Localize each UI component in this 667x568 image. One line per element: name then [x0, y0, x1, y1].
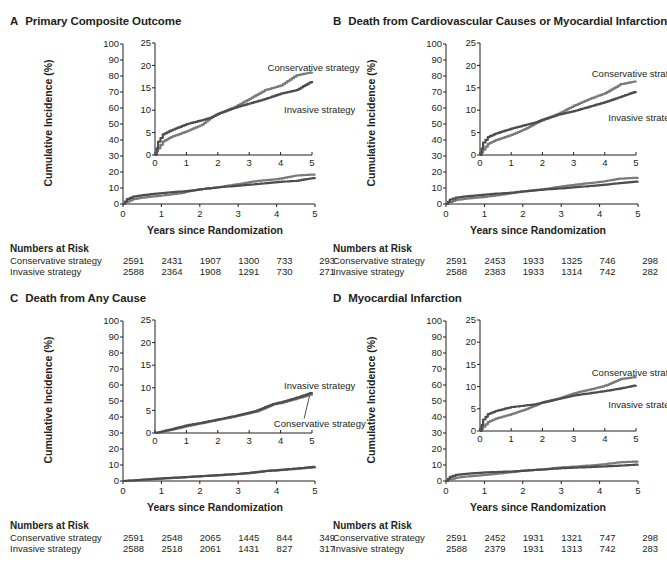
main-curve-conservative — [446, 462, 638, 482]
risk-value: 1300 — [238, 255, 268, 266]
numbers-at-risk-header: Numbers at Risk — [333, 520, 412, 531]
risk-value: 1933 — [523, 266, 553, 277]
y-tick-label: 40 — [431, 411, 442, 422]
y-tick-label: 100 — [426, 315, 442, 326]
x-tick-label: 2 — [197, 485, 202, 496]
x-tick-label: 4 — [274, 485, 279, 496]
inset-y-tick-label: 15 — [140, 359, 151, 370]
risk-value: 2452 — [484, 532, 514, 543]
y-tick-label: 90 — [431, 331, 442, 342]
x-tick-label: 2 — [520, 208, 525, 219]
y-axis-title: Cumulative Incidence (%) — [42, 320, 54, 480]
y-tick-label: 50 — [431, 395, 442, 406]
y-tick-label: 10 — [431, 182, 442, 193]
risk-value: 2379 — [484, 543, 514, 554]
risk-value: 733 — [277, 255, 307, 266]
y-tick-label: 70 — [431, 363, 442, 374]
inset-x-tick-label: 1 — [184, 435, 189, 446]
numbers-at-risk-header: Numbers at Risk — [10, 520, 89, 531]
x-tick-label: 4 — [274, 208, 279, 219]
inset-x-tick-label: 2 — [540, 433, 545, 444]
risk-value: 298 — [628, 532, 658, 543]
risk-value: 1907 — [200, 255, 230, 266]
inset-x-tick-label: 0 — [152, 435, 157, 446]
inset-y-tick-label: 5 — [146, 127, 151, 138]
y-axis-title: Cumulative Incidence (%) — [42, 43, 54, 203]
x-tick-label: 0 — [120, 485, 125, 496]
risk-row-label: Invasive strategy — [10, 543, 81, 554]
inset-x-tick-label: 2 — [540, 157, 545, 168]
inset-x-tick-label: 1 — [509, 157, 514, 168]
inset-y-tick-label: 10 — [465, 104, 476, 115]
x-axis-title: Years since Randomization — [470, 224, 606, 236]
inset-x-tick-label: 4 — [602, 433, 607, 444]
risk-value: 742 — [600, 266, 630, 277]
risk-row-invasive: Invasive strategy 2588237919311313742283 — [333, 543, 412, 554]
main-curve-invasive — [123, 178, 315, 204]
inset-y-tick-label: 15 — [465, 82, 476, 93]
y-tick-label: 50 — [108, 118, 119, 129]
x-tick-label: 1 — [482, 485, 487, 496]
risk-value: 1445 — [238, 532, 268, 543]
risk-value: 1933 — [523, 255, 553, 266]
x-tick-label: 0 — [443, 485, 448, 496]
x-tick-label: 3 — [236, 485, 241, 496]
x-tick-label: 4 — [597, 208, 602, 219]
y-tick-label: 60 — [108, 379, 119, 390]
inset-x-tick-label: 4 — [278, 435, 283, 446]
risk-row-label: Conservative strategy — [10, 255, 102, 266]
inset-y-tick-label: 15 — [465, 359, 476, 370]
main-curve-invasive — [446, 181, 638, 204]
risk-value: 2588 — [123, 543, 153, 554]
y-tick-label: 30 — [108, 150, 119, 161]
y-tick-label: 0 — [114, 475, 119, 486]
risk-value: 2431 — [161, 255, 191, 266]
panel-d: DMyocardial Infarction 01020304050607080… — [323, 277, 651, 561]
inset-x-tick-label: 5 — [633, 157, 638, 168]
series-annotation: Invasive strategy — [608, 399, 667, 410]
y-tick-label: 70 — [108, 86, 119, 97]
inset-x-tick-label: 0 — [477, 157, 482, 168]
y-tick-label: 30 — [431, 150, 442, 161]
risk-row-label: Invasive strategy — [333, 266, 404, 277]
x-tick-label: 2 — [197, 208, 202, 219]
risk-row-conservative: Conservative strategy 259124521931132174… — [333, 532, 412, 543]
panel-b: BDeath from Cardiovascular Causes or Myo… — [323, 0, 651, 284]
inset-axes: 0510152025012345 — [465, 314, 640, 444]
inset-y-tick-label: 5 — [146, 405, 151, 416]
risk-value: 1931 — [523, 543, 553, 554]
y-tick-label: 0 — [437, 475, 442, 486]
risk-row-label: Conservative strategy — [10, 532, 102, 543]
inset-x-tick-label: 5 — [309, 157, 314, 168]
inset-y-tick-label: 0 — [471, 149, 476, 160]
x-tick-label: 5 — [312, 485, 317, 496]
risk-value: 742 — [600, 543, 630, 554]
risk-value: 2548 — [161, 532, 191, 543]
inset-x-tick-label: 3 — [247, 157, 252, 168]
risk-value: 2591 — [446, 532, 476, 543]
y-tick-label: 60 — [431, 102, 442, 113]
y-tick-label: 10 — [108, 459, 119, 470]
risk-value: 2061 — [200, 543, 230, 554]
risk-value: 1431 — [238, 543, 268, 554]
inset-x-tick-label: 0 — [477, 433, 482, 444]
risk-row-invasive: Invasive strategy 2588238319331314742282 — [333, 266, 412, 277]
inset-x-tick-label: 1 — [509, 433, 514, 444]
inset-y-tick-label: 20 — [140, 60, 151, 71]
inset-x-tick-label: 4 — [278, 157, 283, 168]
risk-row-label: Invasive strategy — [10, 266, 81, 277]
risk-value: 2588 — [446, 266, 476, 277]
risk-row-invasive: Invasive strategy 2588251820611431827317 — [10, 543, 89, 554]
risk-value: 827 — [277, 543, 307, 554]
risk-row-label: Invasive strategy — [333, 543, 404, 554]
risk-value: 2065 — [200, 532, 230, 543]
inset-y-tick-label: 0 — [146, 427, 151, 438]
risk-value: 1313 — [561, 543, 591, 554]
y-tick-label: 30 — [431, 427, 442, 438]
y-tick-label: 50 — [431, 118, 442, 129]
x-tick-label: 2 — [520, 485, 525, 496]
y-tick-label: 80 — [108, 70, 119, 81]
risk-value: 282 — [628, 266, 658, 277]
risk-value: 844 — [277, 532, 307, 543]
risk-row-invasive: Invasive strategy 2588236419081291730271 — [10, 266, 89, 277]
